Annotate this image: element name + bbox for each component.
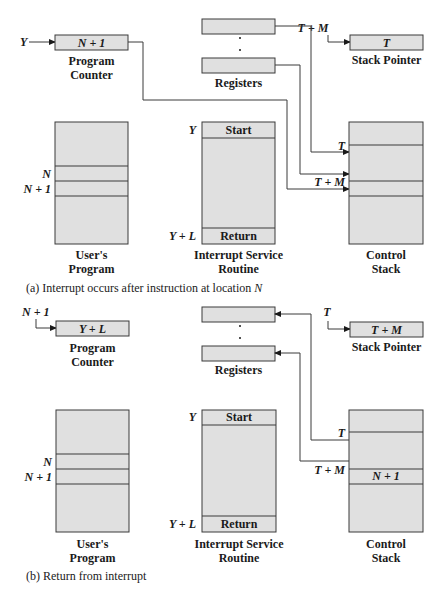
pc-label-line2: Counter [70, 68, 113, 82]
isr-label-line2: Routine [219, 551, 260, 565]
control-stack-label-line1: Control [366, 537, 406, 551]
marker-t-plus-m: T + M [314, 463, 345, 477]
marker-n: N [41, 167, 52, 181]
stack-slot-value: N + 1 [371, 469, 400, 483]
caption-a: (a) Interrupt occurs after instruction a… [26, 281, 263, 295]
ellipsis-dot [239, 49, 241, 51]
sp-value: T [383, 36, 391, 50]
sp-label: Stack Pointer [352, 53, 422, 67]
registers-label: Registers [215, 363, 263, 377]
users-program-a: N N + 1 User's Program [22, 122, 128, 276]
part-a-diagram: Y N + 1 Program Counter Registers T + M … [20, 19, 423, 295]
pc-input-label: Y [20, 35, 29, 49]
users-program-label-line2: Program [70, 551, 116, 565]
part-b-diagram: N + 1 Y + L Program Counter Registers T … [21, 305, 423, 583]
control-stack-label-line2: Stack [372, 551, 401, 565]
control-stack-a: T T + M Control Stack [314, 122, 423, 276]
isr-start: Start [226, 123, 252, 137]
isr-box [202, 122, 275, 244]
marker-t: T [338, 139, 346, 153]
users-program-box [55, 122, 128, 244]
registers-b: Registers [202, 307, 275, 377]
stack-pointer-b: T T + M Stack Pointer [323, 305, 423, 354]
ellipsis-dot [239, 337, 241, 339]
users-program-label-line2: Program [69, 262, 115, 276]
pc-label-line1: Program [70, 341, 116, 355]
isr-start-marker: Y [189, 410, 198, 424]
control-stack-b: N + 1 T T + M Control Stack [314, 410, 423, 565]
register-bottom-box [202, 346, 275, 361]
isr-return-marker: Y + L [169, 517, 196, 531]
stack-pointer-a: T + M T Stack Pointer [298, 21, 423, 67]
marker-n-plus-1: N + 1 [23, 470, 52, 484]
marker-n: N [42, 455, 53, 469]
connector-register-top-to-stack [275, 26, 349, 152]
isr-a: Start Return Y Y + L Interrupt Service R… [169, 122, 284, 276]
marker-t-plus-m: T + M [314, 175, 345, 189]
isr-return-marker: Y + L [169, 229, 196, 243]
program-counter-b: N + 1 Y + L Program Counter [21, 305, 129, 369]
registers-a: Registers [202, 19, 275, 90]
users-program-box [56, 410, 129, 532]
isr-b: Start Return Y Y + L Interrupt Service R… [169, 410, 284, 565]
connector-register-bottom-to-stack [275, 65, 349, 174]
connector-stack-to-register-bottom [275, 353, 349, 461]
register-bottom-box [202, 58, 275, 73]
sp-value: T + M [371, 323, 402, 337]
connector-stack-to-register-top [275, 314, 349, 440]
control-stack-label-line1: Control [366, 248, 406, 262]
marker-t: T [338, 426, 346, 440]
isr-label-line1: Interrupt Service [194, 248, 284, 262]
sp-input-arrow [328, 35, 350, 42]
register-top-box [202, 307, 275, 322]
isr-start-marker: Y [189, 123, 198, 137]
isr-return: Return [220, 229, 257, 243]
sp-label: Stack Pointer [352, 340, 422, 354]
isr-start: Start [226, 410, 252, 424]
ellipsis-dot [239, 325, 241, 327]
users-program-label-line1: User's [77, 537, 109, 551]
users-program-label-line1: User's [76, 248, 108, 262]
control-stack-box [349, 122, 423, 244]
sp-input-label: T [323, 305, 331, 319]
isr-box [202, 410, 276, 532]
pc-value: Y + L [79, 322, 106, 336]
program-counter-a: Y N + 1 Program Counter [20, 35, 128, 82]
sp-input-label: T + M [298, 21, 329, 35]
users-program-b: N N + 1 User's Program [23, 410, 129, 565]
isr-label-line1: Interrupt Service [195, 537, 285, 551]
caption-b: (b) Return from interrupt [26, 569, 147, 583]
pc-label-line1: Program [69, 54, 115, 68]
marker-n-plus-1: N + 1 [22, 182, 51, 196]
isr-label-line2: Routine [218, 262, 259, 276]
pc-value: N + 1 [77, 36, 106, 50]
control-stack-label-line2: Stack [372, 262, 401, 276]
ellipsis-dot [239, 37, 241, 39]
pc-label-line2: Counter [71, 355, 114, 369]
registers-label: Registers [215, 76, 263, 90]
register-top-box [202, 19, 275, 34]
pc-input-arrow [36, 319, 56, 328]
isr-return: Return [221, 517, 258, 531]
sp-input-arrow [328, 321, 350, 329]
pc-input-label: N + 1 [21, 305, 50, 319]
